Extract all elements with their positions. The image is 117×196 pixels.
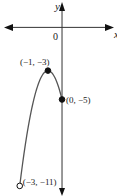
x-axis-label: x: [113, 28, 117, 40]
origin-label: 0: [53, 31, 58, 42]
point-marker: [17, 183, 23, 189]
x-axis-right-arrow-icon: [105, 24, 114, 31]
point-marker: [59, 97, 65, 103]
y-axis-up-arrow-icon: [59, 2, 65, 11]
x-axis-left-arrow-icon: [4, 24, 13, 31]
point-marker: [45, 68, 51, 74]
point-label: (0, −5): [66, 95, 91, 105]
y-axis-label: y: [54, 0, 60, 12]
parabola-curve: [20, 71, 62, 186]
y-axis-down-arrow-icon: [59, 188, 65, 196]
point-label: (−3, −11): [23, 177, 57, 187]
parabola-chart: (−1, −3)(0, −5)(−3, −11) y x 0: [0, 0, 117, 196]
point-label: (−1, −3): [20, 57, 50, 67]
